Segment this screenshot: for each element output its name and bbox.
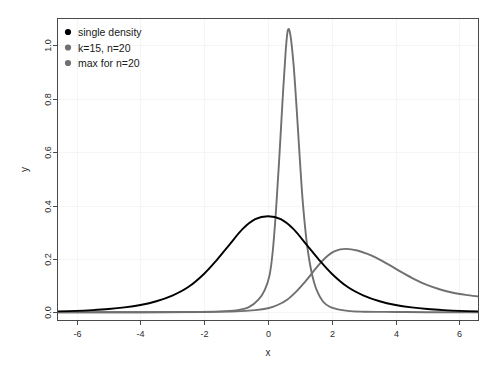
- legend-label: single density: [78, 26, 142, 38]
- x-tick-label: -6: [73, 329, 81, 339]
- y-tick-label: 0.0: [43, 306, 53, 319]
- y-axis-title: y: [19, 167, 30, 172]
- y-tick-label: 0.6: [43, 146, 53, 159]
- x-tick-label: -2: [200, 329, 208, 339]
- x-tick-label: -4: [136, 329, 144, 339]
- legend-label: max for n=20: [78, 57, 140, 69]
- y-tick-label: 0.2: [43, 253, 53, 266]
- x-tick-label: 6: [457, 329, 462, 339]
- y-tick-label: 1.0: [43, 39, 53, 52]
- y-tick-label: 0.8: [43, 93, 53, 106]
- x-tick-label: 4: [394, 329, 399, 339]
- x-axis-title: x: [266, 347, 271, 358]
- legend-marker: [65, 44, 71, 50]
- x-tick-label: 2: [330, 329, 335, 339]
- x-tick-label: 0: [266, 329, 271, 339]
- legend-label: k=15, n=20: [78, 42, 131, 54]
- legend-marker: [65, 29, 71, 35]
- y-tick-label: 0.4: [43, 200, 53, 213]
- density-plot-svg: -6-4-20246 0.00.20.40.60.81.0 x y single…: [0, 0, 504, 367]
- chart-figure: -6-4-20246 0.00.20.40.60.81.0 x y single…: [0, 0, 504, 367]
- legend-marker: [65, 60, 71, 66]
